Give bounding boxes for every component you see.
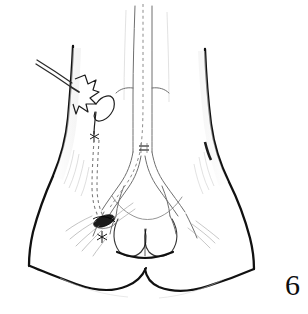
surgical-figure: 6 — [0, 0, 308, 314]
canvas-background — [0, 0, 308, 314]
illustration-canvas — [0, 0, 308, 314]
figure-number: 6 — [285, 270, 300, 300]
